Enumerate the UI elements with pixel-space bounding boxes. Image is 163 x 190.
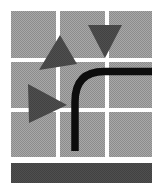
logo-graphic <box>0 0 163 190</box>
bottom-bar <box>11 163 152 183</box>
grid-tile-r3c2 <box>60 112 105 157</box>
grid-tile-r3c3 <box>109 112 152 157</box>
logo-canvas <box>0 0 163 190</box>
grid-tile-r1c1 <box>11 11 56 58</box>
